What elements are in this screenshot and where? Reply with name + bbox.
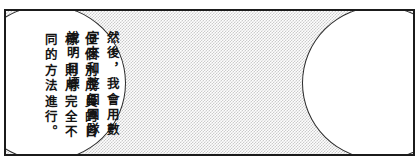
page-bottom-edge: [0, 163, 419, 167]
balloon-left-column-3: 同的方法進行。: [40, 33, 58, 141]
balloon-right-column-1: 然後，我會用數: [103, 31, 121, 139]
comic-panel-frame: 但個別成員的目 標，則用完全不 同的方法進行。 然後，我會用數 字來和整個團隊 …: [4, 9, 415, 156]
balloon-right-column-3: 說明目標: [62, 31, 80, 93]
comic-panel-root: 但個別成員的目 標，則用完全不 同的方法進行。 然後，我會用數 字來和整個團隊 …: [0, 0, 419, 167]
speech-balloon-right-text: 然後，我會用數 字來和整個團隊 說明目標: [62, 31, 121, 139]
balloon-right-column-2: 字來和整個團隊: [82, 31, 100, 139]
